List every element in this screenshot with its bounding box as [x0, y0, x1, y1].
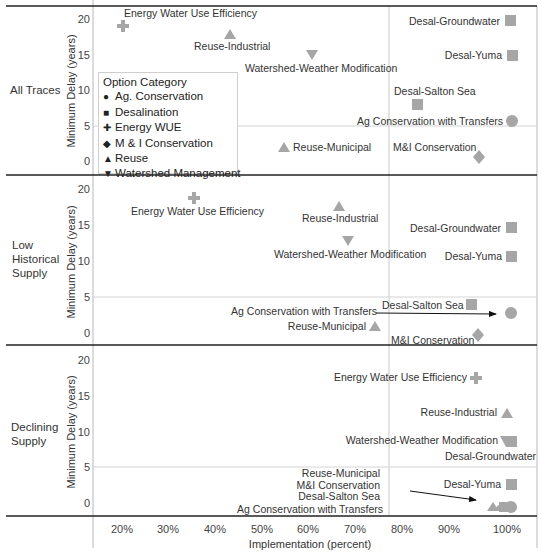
triangle-down-marker	[342, 236, 354, 246]
square-marker	[507, 50, 518, 61]
y-axis-title-3: Minimum Delay (years)	[65, 375, 77, 488]
arrow-cluster	[410, 491, 476, 500]
triangle-up-icon: ▲	[103, 152, 115, 166]
legend-item-energy-wue: ✚Energy WUE	[103, 120, 233, 135]
row-label-low-3: Supply	[12, 267, 47, 279]
label-desal-yuma: Desal-Yuma	[444, 478, 501, 490]
square-marker	[506, 222, 517, 233]
svg-text:10: 10	[78, 255, 90, 267]
legend-item-ag-conservation: ●Ag. Conservation	[103, 89, 233, 104]
label-reuse-industrial: Reuse-Industrial	[421, 406, 497, 418]
svg-text:30%: 30%	[157, 523, 179, 535]
svg-text:40%: 40%	[204, 523, 226, 535]
triangle-down-icon: ▼	[103, 167, 115, 181]
circle-marker	[505, 307, 517, 319]
diamond-icon: ◆	[103, 137, 115, 151]
y-axis-title-1: Minimum Delay (years)	[65, 34, 77, 147]
svg-text:0: 0	[84, 327, 90, 339]
label-desal-groundwater: Desal-Groundwater	[445, 450, 537, 462]
legend-item-desalination: ■Desalination	[103, 105, 233, 120]
triangle-up-marker	[278, 142, 290, 152]
scatter-chart: All Traces Low Historical Supply Declini…	[0, 0, 541, 558]
triangle-up-marker	[501, 408, 513, 418]
label-reuse-municipal: Reuse-Municipal	[288, 320, 366, 332]
svg-text:70%: 70%	[344, 523, 366, 535]
x-ticks: 20% 30% 40% 50% 60% 70% 80% 90% 100%	[111, 523, 521, 535]
row-label-low-1: Low	[12, 239, 34, 251]
svg-text:50%: 50%	[251, 523, 273, 535]
svg-text:80%: 80%	[391, 523, 413, 535]
svg-text:0: 0	[84, 155, 90, 167]
svg-text:5: 5	[84, 120, 90, 132]
square-marker	[506, 479, 517, 490]
square-marker	[466, 299, 477, 310]
svg-text:5: 5	[84, 291, 90, 303]
svg-text:20: 20	[78, 354, 90, 366]
label-reuse-municipal: Reuse-Municipal	[302, 467, 380, 479]
svg-text:5: 5	[84, 461, 90, 473]
y-ticks-panel-3: 20 15 10 5 0	[78, 354, 90, 509]
label-reuse-industrial: Reuse-Industrial	[302, 212, 378, 224]
label-reuse-industrial: Reuse-Industrial	[194, 40, 270, 52]
svg-text:20%: 20%	[111, 523, 133, 535]
legend-item-watershed-management: ▼Watershed Management	[103, 166, 233, 181]
label-desal-yuma: Desal-Yuma	[445, 49, 502, 61]
label-watershed-weather: Watershed-Weather Modification	[274, 248, 426, 260]
label-mi-conservation: M&I Conservation	[391, 334, 475, 346]
legend-item-mi-conservation: ◆M & I Conservation	[103, 136, 233, 151]
legend-title: Option Category	[103, 75, 233, 89]
triangle-up-marker	[369, 321, 381, 331]
arrow-ag-transfers	[376, 313, 496, 314]
plus-marker	[188, 192, 200, 204]
label-ag-conservation-transfers: Ag Conservation with Transfers	[357, 115, 503, 127]
triangle-up-marker	[224, 29, 236, 39]
svg-text:20: 20	[78, 13, 90, 25]
label-ewue: Energy Water Use Efficiency	[124, 7, 258, 19]
label-desal-salton-sea: Desal-Salton Sea	[394, 85, 476, 97]
triangle-up-marker	[333, 201, 345, 211]
svg-text:15: 15	[78, 49, 90, 61]
label-desal-yuma: Desal-Yuma	[445, 250, 502, 262]
svg-text:10: 10	[78, 426, 90, 438]
svg-text:0: 0	[84, 497, 90, 509]
svg-text:15: 15	[78, 219, 90, 231]
y-ticks-panel-2: 20 15 10 5 0	[78, 183, 90, 339]
svg-text:10: 10	[78, 84, 90, 96]
y-ticks-panel-1: 20 15 10 5 0	[78, 13, 90, 167]
legend: Option Category ●Ag. Conservation ■Desal…	[98, 72, 238, 174]
label-reuse-municipal: Reuse-Municipal	[293, 141, 371, 153]
label-watershed-weather: Watershed-Weather Modification	[346, 434, 498, 446]
y-axis-title-2: Minimum Delay (years)	[65, 205, 77, 318]
plus-marker	[470, 372, 482, 384]
label-watershed-weather: Watershed-Weather Modification	[245, 62, 397, 74]
label-desal-groundwater: Desal-Groundwater	[409, 15, 501, 27]
circle-marker	[505, 501, 517, 513]
triangle-down-marker	[306, 50, 318, 60]
square-marker	[506, 251, 517, 262]
x-axis-title: Implementation (percent)	[249, 538, 371, 550]
label-desal-salton-sea: Desal-Salton Sea	[298, 490, 380, 502]
label-ewue: Energy Water Use Efficiency	[334, 371, 468, 383]
square-marker	[412, 99, 423, 110]
label-ag-conservation-transfers: Ag Conservation with Transfers	[237, 503, 383, 515]
panel-low-historical-supply: Energy Water Use Efficiency Reuse-Indust…	[131, 192, 517, 346]
label-desal-salton-sea: Desal-Salton Sea	[382, 299, 464, 311]
label-desal-groundwater: Desal-Groundwater	[410, 222, 502, 234]
circle-marker	[506, 115, 518, 127]
legend-item-reuse: ▲Reuse	[103, 151, 233, 166]
label-ewue: Energy Water Use Efficiency	[131, 205, 265, 217]
plus-marker	[117, 20, 129, 32]
row-label-all-traces: All Traces	[10, 84, 61, 96]
row-label-declining-1: Declining	[11, 421, 58, 433]
svg-text:15: 15	[78, 390, 90, 402]
square-icon: ■	[103, 106, 115, 120]
svg-text:20: 20	[78, 183, 90, 195]
svg-text:90%: 90%	[438, 523, 460, 535]
row-label-low-2: Historical	[12, 253, 59, 265]
square-marker	[505, 15, 516, 26]
panel-declining-supply: Energy Water Use Efficiency Reuse-Indust…	[237, 371, 536, 515]
label-mi-conservation: M&I Conservation	[393, 141, 477, 153]
label-ag-conservation-transfers: Ag Conservation with Transfers	[231, 305, 377, 317]
plus-icon: ✚	[103, 121, 115, 135]
svg-text:100%: 100%	[493, 523, 521, 535]
